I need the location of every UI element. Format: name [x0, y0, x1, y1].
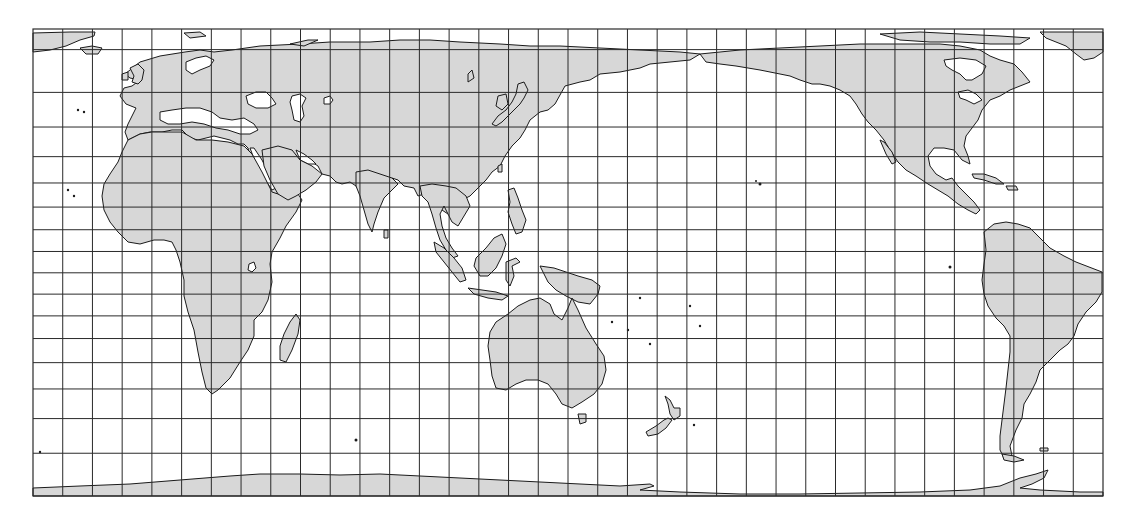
island-dot-new-caledonia	[649, 343, 651, 345]
landmass-sri-lanka	[384, 230, 388, 238]
island-dot-galapagos	[949, 266, 952, 269]
island-dot-kerguelen	[355, 439, 358, 442]
island-dot	[67, 189, 69, 191]
island-dot	[639, 297, 641, 299]
island-dot	[693, 424, 695, 426]
world-map-canvas	[0, 0, 1132, 527]
island-dot	[83, 111, 85, 113]
island-dot	[699, 325, 701, 327]
landmass-taiwan	[498, 164, 502, 172]
island-dot-hawaii	[755, 180, 757, 182]
world-map	[0, 0, 1132, 527]
landmass-ireland	[122, 72, 128, 80]
island-dot	[689, 305, 691, 307]
island-dot	[73, 195, 75, 197]
island-dot	[611, 321, 613, 323]
landmass-hispaniola	[1006, 186, 1018, 190]
island-dot	[77, 109, 79, 111]
